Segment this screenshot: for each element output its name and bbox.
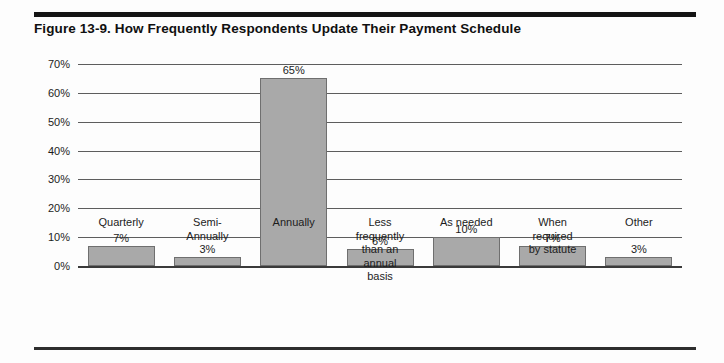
figure-bottom-rule — [34, 347, 696, 350]
x-axis-category-label: As needed — [424, 216, 508, 230]
y-axis-tick-label: 70% — [48, 58, 70, 70]
y-axis-tick-label: 60% — [48, 87, 70, 99]
y-axis-tick-label: 10% — [48, 231, 70, 243]
y-axis-tick-label: 50% — [48, 116, 70, 128]
page-title: Figure 13-9. How Frequently Respondents … — [34, 21, 521, 36]
x-axis-category-label: Quarterly — [79, 216, 163, 230]
x-axis-category-label: Semi- Annually — [165, 216, 249, 243]
y-axis-tick-label: 20% — [48, 202, 70, 214]
x-axis-category-label: When required by statute — [511, 216, 595, 257]
x-axis-category-label: Annually — [252, 216, 336, 230]
title-top-rule — [34, 12, 696, 17]
y-axis-tick-label: 0% — [54, 260, 70, 272]
x-axis-category-label: Less frequently than an annual basis — [338, 216, 422, 284]
y-axis-tick-label: 40% — [48, 145, 70, 157]
x-axis-labels: QuarterlySemi- AnnuallyAnnuallyLess freq… — [78, 216, 682, 306]
bar-value-label: 65% — [260, 64, 327, 76]
x-axis-category-label: Other — [597, 216, 681, 230]
y-axis-tick-label: 30% — [48, 173, 70, 185]
